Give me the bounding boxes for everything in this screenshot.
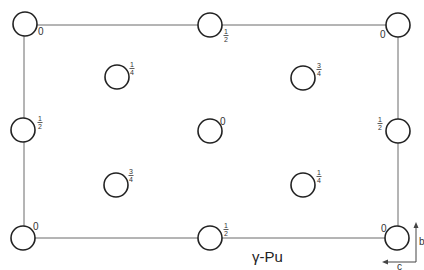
fraction-denominator: 4 — [130, 69, 134, 76]
fraction-numerator: 1 — [38, 115, 42, 122]
fraction-denominator: 2 — [38, 123, 42, 130]
fraction-denominator: 4 — [129, 176, 133, 183]
height-label: 0 — [38, 26, 44, 37]
fraction-numerator: 1 — [224, 222, 228, 229]
atom-lower-left-inner — [104, 173, 128, 197]
fraction-height-label: 12 — [224, 28, 229, 43]
atom-middle-right — [386, 119, 410, 143]
fraction-numerator: 1 — [317, 169, 321, 176]
fraction-denominator: 4 — [317, 70, 321, 77]
atom-positions — [11, 12, 410, 250]
c-axis-label: c — [397, 261, 402, 270]
atom-center — [198, 119, 222, 143]
height-label: 0 — [381, 223, 387, 234]
atom-bottom-right — [385, 226, 409, 250]
fraction-numerator: 3 — [129, 168, 133, 175]
atom-top-left — [13, 12, 37, 36]
atom-top-middle — [198, 13, 222, 37]
fraction-height-label: 14 — [130, 61, 135, 76]
fraction-numerator: 3 — [317, 62, 321, 69]
fraction-height-label: 34 — [129, 168, 134, 183]
atom-upper-left-inner — [105, 65, 129, 89]
atom-middle-left — [11, 118, 35, 142]
height-label: 0 — [220, 116, 226, 127]
gamma-pu-structure-diagram: 012014341201234140120 b c γ-Pu — [0, 0, 424, 270]
fraction-height-label: 12 — [224, 222, 229, 237]
fraction-height-label: 14 — [317, 169, 322, 184]
fraction-denominator: 2 — [378, 124, 382, 131]
atom-bottom-middle — [198, 226, 222, 250]
height-label: 0 — [33, 221, 39, 232]
fraction-denominator: 2 — [224, 36, 228, 43]
b-axis-arrowhead-icon — [414, 222, 419, 228]
fraction-numerator: 1 — [130, 61, 134, 68]
atom-bottom-left — [11, 226, 35, 250]
c-axis-arrowhead-icon — [382, 260, 388, 265]
b-axis-label: b — [419, 236, 424, 247]
atom-upper-right-inner — [291, 66, 315, 90]
atom-lower-right-inner — [291, 173, 315, 197]
fraction-numerator: 1 — [378, 116, 382, 123]
fraction-height-label: 34 — [317, 62, 322, 77]
fraction-numerator: 1 — [224, 28, 228, 35]
atom-top-right — [386, 13, 410, 37]
structure-title: γ-Pu — [252, 248, 283, 265]
fraction-height-label: 12 — [38, 115, 43, 130]
fraction-denominator: 2 — [224, 230, 228, 237]
height-label: 0 — [380, 29, 386, 40]
fraction-denominator: 4 — [317, 177, 321, 184]
fraction-height-label: 12 — [378, 116, 383, 131]
